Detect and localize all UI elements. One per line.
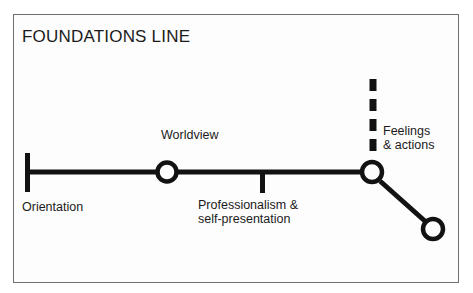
label-feelings-line2: & actions bbox=[383, 138, 434, 152]
figure-title: FOUNDATIONS LINE bbox=[22, 27, 190, 47]
label-orientation: Orientation bbox=[22, 200, 83, 214]
branch-end-node bbox=[423, 219, 443, 239]
label-worldview: Worldview bbox=[161, 128, 218, 142]
diagonal-branch-line bbox=[380, 181, 426, 222]
label-professionalism: Professionalism & self-presentation bbox=[198, 198, 298, 226]
diagram-canvas: FOUNDATIONS LINE Worldview Orientation P… bbox=[0, 0, 473, 293]
feelings-actions-node bbox=[362, 162, 382, 182]
label-professionalism-line1: Professionalism & bbox=[198, 198, 298, 212]
label-feelings-line1: Feelings bbox=[383, 124, 434, 138]
label-professionalism-line2: self-presentation bbox=[198, 212, 298, 226]
label-feelings-actions: Feelings & actions bbox=[383, 124, 434, 152]
worldview-node bbox=[158, 163, 177, 182]
